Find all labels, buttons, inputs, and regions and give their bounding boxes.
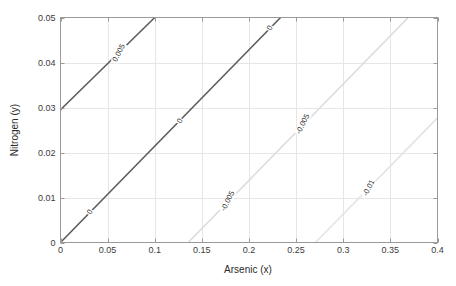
contour-figure: 00.050.10.150.20.250.30.350.4 00.010.020… bbox=[0, 0, 456, 286]
x-tick-label: 0.3 bbox=[337, 246, 350, 255]
x-tick-label: 0.2 bbox=[243, 246, 256, 255]
y-tick-label: 0.04 bbox=[38, 58, 56, 67]
y-tick-label: 0.03 bbox=[38, 103, 56, 112]
contour-line bbox=[61, 18, 281, 243]
x-tick-label: 0.15 bbox=[193, 246, 211, 255]
x-tick-label: 0.1 bbox=[148, 246, 161, 255]
y-axis-label: Nitrogen (y) bbox=[9, 104, 20, 156]
y-tick-label: 0 bbox=[50, 238, 55, 247]
plot-canvas bbox=[0, 0, 456, 286]
x-tick-label: 0.05 bbox=[99, 246, 117, 255]
x-axis-label: Arsenic (x) bbox=[224, 264, 272, 275]
y-tick-label: 0.05 bbox=[38, 13, 56, 22]
x-tick-label: 0.25 bbox=[287, 246, 305, 255]
x-tick-label: 0 bbox=[58, 246, 63, 255]
y-tick-label: 0.01 bbox=[38, 193, 56, 202]
x-tick-label: 0.4 bbox=[431, 246, 444, 255]
y-tick-label: 0.02 bbox=[38, 148, 56, 157]
x-tick-label: 0.35 bbox=[382, 246, 400, 255]
